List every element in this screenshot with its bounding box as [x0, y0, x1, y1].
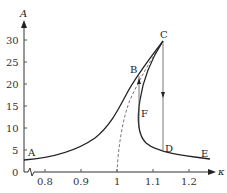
y-tick-label: 20 — [6, 79, 19, 90]
x-axis-arrow-icon — [208, 169, 216, 175]
y-tick-label: 30 — [6, 35, 19, 46]
x-tick-label: 0.8 — [37, 176, 53, 187]
upper-branch-line — [24, 41, 163, 160]
x-tick-label: 0.9 — [73, 176, 89, 187]
point-label-f: F — [141, 108, 148, 119]
unstable-branch-line — [117, 41, 163, 172]
y-tick-label: 0 — [12, 167, 18, 178]
y-axis: A 0 5 10 15 20 25 30 — [6, 8, 27, 178]
point-label-b: B — [130, 64, 137, 75]
point-label-a: A — [27, 147, 36, 158]
point-label-d: D — [165, 143, 173, 154]
y-tick-label: 15 — [6, 101, 19, 112]
y-tick-label: 10 — [6, 123, 19, 134]
x-tick-label: 1.2 — [181, 176, 197, 187]
x-tick-label: 1 — [114, 176, 120, 187]
point-label-c: C — [160, 29, 168, 40]
y-tick-label: 25 — [6, 57, 19, 68]
x-axis: κ 0.8 0.9 1 1.1 1.2 — [24, 166, 225, 187]
y-axis-title: A — [19, 8, 27, 19]
x-axis-title: κ — [217, 166, 225, 177]
point-label-e: E — [201, 148, 208, 159]
axis-break-icon — [24, 168, 214, 176]
chart: A 0 5 10 15 20 25 30 κ 0.8 0.9 — [0, 0, 227, 193]
y-axis-arrow-icon — [21, 20, 27, 28]
y-tick-label: 5 — [12, 145, 18, 156]
x-tick-label: 1.1 — [145, 176, 161, 187]
down-arrow-icon — [161, 92, 165, 98]
